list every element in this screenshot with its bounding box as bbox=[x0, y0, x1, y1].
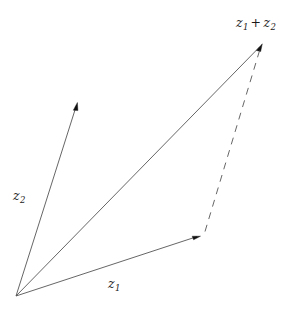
label-sum-sub2: 2 bbox=[270, 22, 275, 32]
vector-diagram-canvas bbox=[0, 0, 301, 318]
label-z1-plus-z2: z1+z2 bbox=[236, 17, 276, 30]
vector-sum-arrowhead bbox=[256, 44, 262, 52]
vector-z1-arrowhead bbox=[192, 236, 200, 240]
label-z1-sub: 1 bbox=[115, 283, 120, 293]
label-sum-operator: + bbox=[248, 15, 263, 30]
vector-z2-shaft bbox=[16, 106, 76, 297]
parallelogram-dashed-side bbox=[205, 48, 261, 232]
vector-z2 bbox=[16, 103, 78, 297]
vector-addition-figure: z1+z2 z2 z1 bbox=[0, 0, 301, 318]
label-sum-var1: z bbox=[236, 15, 243, 30]
label-z2-var: z bbox=[13, 188, 20, 203]
label-z1: z1 bbox=[108, 278, 120, 291]
vector-z1-shaft bbox=[16, 237, 197, 296]
label-z2: z2 bbox=[13, 190, 25, 203]
vector-z1-plus-z2 bbox=[16, 44, 262, 296]
vector-z2-arrowhead bbox=[73, 103, 78, 111]
vector-sum-shaft bbox=[16, 47, 260, 297]
label-z2-sub: 2 bbox=[20, 195, 25, 205]
label-z1-var: z bbox=[108, 276, 115, 291]
label-sum-sub1: 1 bbox=[243, 22, 248, 32]
